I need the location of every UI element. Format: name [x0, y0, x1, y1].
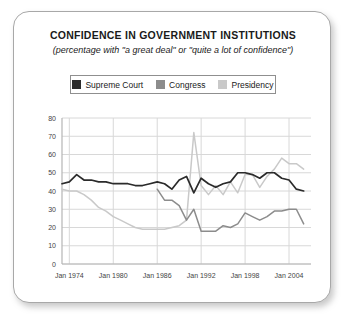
line-chart-svg: 01020304050607080 Jan 1974Jan 1980Jan 19… [14, 12, 332, 304]
x-axis-tick-label: Jan 1998 [231, 272, 260, 279]
y-axis-tick-label: 10 [48, 242, 56, 249]
y-axis-tick-label: 40 [48, 188, 56, 195]
y-axis-tick-label: 20 [48, 224, 56, 231]
x-axis-tick-label: Jan 1992 [187, 272, 216, 279]
x-axis-tick-labels: Jan 1974Jan 1980Jan 1986Jan 1992Jan 1998… [55, 272, 304, 279]
data-series-lines [62, 133, 304, 232]
y-axis-tick-label: 50 [48, 169, 56, 176]
x-axis-tick-label: Jan 1974 [55, 272, 84, 279]
y-axis-tick-labels: 01020304050607080 [48, 115, 56, 268]
x-axis-tick-label: Jan 1980 [99, 272, 128, 279]
x-axis-tick-label: Jan 2004 [275, 272, 304, 279]
chart-plot-area: 01020304050607080 Jan 1974Jan 1980Jan 19… [14, 12, 332, 304]
chart-card: CONFIDENCE IN GOVERNMENT INSTITUTIONS (p… [13, 11, 331, 303]
y-axis-tick-label: 70 [48, 133, 56, 140]
y-axis-tick-label: 30 [48, 206, 56, 213]
grid-lines [62, 118, 311, 264]
x-axis-tick-label: Jan 1986 [143, 272, 172, 279]
y-axis-tick-label: 0 [52, 261, 56, 268]
y-axis-tick-label: 80 [48, 115, 56, 122]
y-axis-tick-label: 60 [48, 151, 56, 158]
